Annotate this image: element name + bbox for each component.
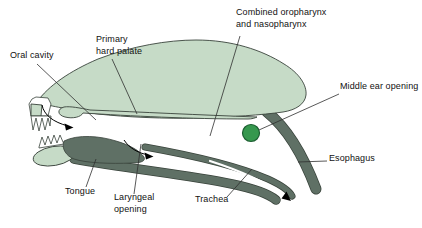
label-laryngeal-opening-line2: opening [114, 203, 154, 215]
middle-ear-opening-dot [243, 125, 260, 142]
label-trachea: Trachea [195, 193, 228, 205]
label-primary-hard-palate-line2: hard palate [96, 45, 142, 57]
label-primary-hard-palate-line1: Primary [96, 33, 142, 45]
premaxilla-bone [31, 104, 42, 116]
lower-tube-core [74, 159, 276, 200]
label-oral-cavity: Oral cavity [10, 49, 54, 61]
upper-teeth [31, 116, 51, 131]
label-laryngeal-opening-line1: Laryngeal [114, 191, 154, 203]
lower-jaw-trachea-lower-tube [74, 159, 276, 200]
anatomy-diagram: Oral cavity Primary hard palate Combined… [0, 0, 422, 228]
tongue-body-shape [63, 136, 144, 163]
label-combined-pharynx-line1: Combined oropharynx [236, 6, 326, 18]
label-laryngeal-opening: Laryngeal opening [114, 191, 154, 215]
label-combined-pharynx: Combined oropharynx and nasopharynx [236, 6, 326, 30]
oral-airflow-arrowhead [65, 124, 74, 131]
label-middle-ear-opening: Middle ear opening [340, 80, 418, 92]
esophagus-core [267, 112, 316, 189]
label-esophagus: Esophagus [329, 152, 375, 164]
esophagus-tube [267, 112, 316, 189]
laryngeal-airflow-arrowhead [145, 153, 154, 160]
label-tongue: Tongue [65, 185, 95, 197]
label-combined-pharynx-line2: and nasopharynx [236, 18, 326, 30]
label-primary-hard-palate: Primary hard palate [96, 33, 142, 57]
skull-upper-jaw-shape [37, 40, 306, 118]
